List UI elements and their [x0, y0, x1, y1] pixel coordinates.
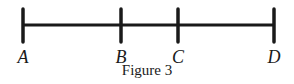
point-label-c: C: [172, 48, 184, 66]
point-label-d: D: [268, 48, 281, 66]
figure-caption: Figure 3: [122, 63, 172, 78]
point-label-a: A: [18, 48, 29, 66]
